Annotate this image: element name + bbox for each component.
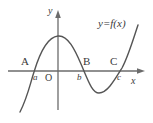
y-axis-label: y (48, 6, 52, 16)
y-axis-arrowhead (55, 10, 61, 18)
intercept-value-c: c (117, 73, 121, 82)
cubic-curve (20, 25, 138, 112)
function-equation-label: y=f(x) (98, 18, 126, 29)
function-graph-figure: y x O A a B b C c y=f(x) (0, 0, 153, 123)
intercept-label-a: A (21, 56, 29, 67)
x-axis-label: x (131, 76, 135, 86)
intercept-value-b: b (77, 73, 82, 82)
y-axis (55, 10, 61, 110)
intercept-label-b: B (83, 56, 90, 67)
origin-label: O (45, 73, 52, 83)
intercept-value-a: a (33, 73, 38, 82)
x-axis-arrowhead (137, 68, 145, 74)
intercept-label-c: C (110, 56, 117, 67)
